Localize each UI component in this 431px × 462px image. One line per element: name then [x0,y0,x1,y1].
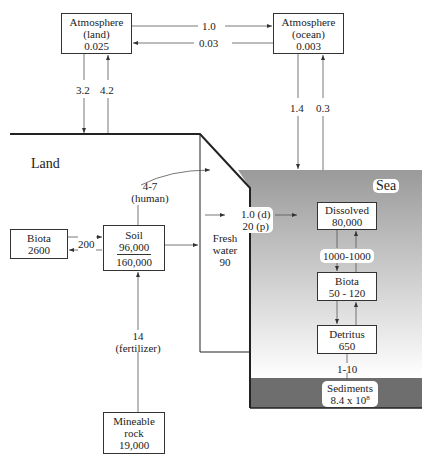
sediments-mantissa: 8.4 x 10 [330,394,366,406]
atmosphere-land-box: Atmosphere (land) 0.025 [61,13,132,54]
land-biota-box: Biota 2600 [10,229,68,259]
flux-river-particulate: 20 (p) [241,220,270,232]
mineable-rock-name: Mineable [113,415,155,427]
flux-atm-land-down: 3.2 [76,84,90,96]
flux-biota-soil: 200 [78,238,95,250]
sediments-label: Sediments 8.4 x 108 [322,381,378,407]
atmosphere-land-value: 0.025 [84,40,109,52]
flux-human: 4-7 (human) [128,180,172,204]
flux-dissolved-biota: 1000-1000 [320,249,374,263]
flux-fertilizer-value: 14 [112,330,164,342]
flux-atm-land-up: 4.2 [100,84,114,96]
land-biota-name: Biota [27,232,51,244]
detritus-name: Detritus [329,328,364,340]
flux-river: 1.0 (d) 20 (p) [238,207,273,233]
atmosphere-ocean-box: Atmosphere (ocean) 0.003 [273,13,344,54]
sea-biota-name: Biota [335,275,359,287]
sediments-exponent: 8 [366,394,370,402]
flux-human-value: 4-7 [128,180,172,192]
mineable-rock-box: Mineable rock 19,000 [103,412,165,454]
detritus-box: Detritus 650 [317,325,377,354]
flux-atm-ocean-up: 0.3 [316,102,330,114]
flux-river-dissolved: 1.0 (d) [241,208,270,220]
soil-box: Soil 96,000 160,000 [103,225,165,271]
detritus-value: 650 [339,340,356,352]
dissolved-box: Dissolved 80,000 [317,202,377,230]
soil-name: Soil [125,229,143,241]
sea-region-label: Sea [373,179,399,193]
mineable-rock-name2: rock [124,427,144,439]
sea-biota-box: Biota 50 - 120 [317,272,377,301]
fresh-water-label: Fresh water 90 [203,232,247,268]
fresh-water-value: 90 [203,256,247,268]
fresh-water-name: Fresh [203,232,247,244]
land-boundary [10,134,250,408]
soil-value-bottom: 160,000 [116,256,152,268]
flux-fertilizer-label: (fertilizer) [112,342,164,354]
mineable-rock-value: 19,000 [119,439,149,451]
land-biota-value: 2600 [28,244,50,256]
atmosphere-land-sub: (land) [83,28,109,40]
atmosphere-ocean-name: Atmosphere [282,16,336,28]
sediments-value: 8.4 x 108 [325,394,375,406]
sea-biota-value: 50 - 120 [329,287,366,299]
flux-human-label: (human) [128,192,172,204]
land-region-label: Land [31,158,60,170]
flux-atm-land-to-ocean: 1.0 [202,20,216,32]
flux-fertilizer: 14 (fertilizer) [112,330,164,354]
soil-value-top: 96,000 [117,241,151,255]
flux-atm-ocean-to-land: 0.03 [199,37,218,49]
dissolved-name: Dissolved [325,204,369,216]
atmosphere-ocean-sub: (ocean) [292,28,325,40]
sediments-name: Sediments [325,382,375,394]
flux-detritus-sediments: 1-10 [337,363,357,375]
dissolved-value: 80,000 [332,216,362,228]
atmosphere-ocean-value: 0.003 [296,40,321,52]
fresh-water-name2: water [203,244,247,256]
atmosphere-land-name: Atmosphere [70,16,124,28]
flux-atm-ocean-down: 1.4 [290,102,304,114]
